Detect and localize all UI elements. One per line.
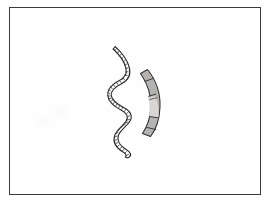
illustration-border xyxy=(9,7,261,195)
screenshot-root: Two-element ink illustration A segmented… xyxy=(0,0,272,204)
